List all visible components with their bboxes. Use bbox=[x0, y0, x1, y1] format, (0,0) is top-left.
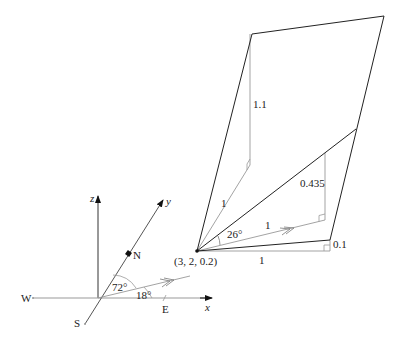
vertical-top-label: 1.1 bbox=[253, 98, 267, 110]
point-label: (3, 2, 0.2) bbox=[174, 255, 217, 268]
angle-18-label: 18° bbox=[136, 289, 151, 301]
diagram-canvas: z y x N W S E 72° 18° (3, 2, 0.2) 1.1 1 … bbox=[0, 0, 401, 341]
rise-bottom-label: 0.1 bbox=[333, 238, 347, 250]
z-axis-label: z bbox=[89, 192, 95, 204]
plane-construction: (3, 2, 0.2) 1.1 1 26° 1 0.435 1 0.1 bbox=[174, 16, 384, 268]
horizontal-length-label: 1 bbox=[259, 254, 265, 266]
parallelogram-plane bbox=[197, 16, 384, 251]
angle-arc-26 bbox=[218, 236, 220, 245]
south-label: S bbox=[74, 317, 80, 329]
east-label: E bbox=[162, 303, 169, 315]
anchor-point bbox=[195, 249, 199, 253]
angle-72-label: 72° bbox=[112, 281, 127, 293]
right-angle-bottom bbox=[324, 245, 330, 251]
aux-direction bbox=[197, 220, 325, 251]
west-end bbox=[32, 297, 34, 299]
rise-mid-label: 0.435 bbox=[300, 177, 325, 189]
vector-diagram: z y x N W S E 72° 18° (3, 2, 0.2) 1.1 1 … bbox=[0, 0, 401, 341]
north-label: N bbox=[133, 249, 141, 261]
south-end bbox=[84, 323, 86, 325]
upper-slant-label: 1 bbox=[221, 197, 227, 209]
x-axis-label: x bbox=[204, 301, 210, 313]
y-axis bbox=[85, 200, 163, 324]
y-axis-label: y bbox=[165, 195, 171, 207]
direction-length-label: 1 bbox=[265, 219, 271, 231]
angle-26-label: 26° bbox=[227, 228, 242, 240]
west-label: W bbox=[21, 292, 32, 304]
